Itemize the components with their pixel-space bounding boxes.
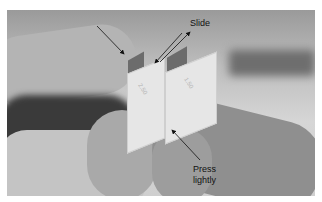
slide-arrow-down [155,33,182,63]
slide-label: Slide [190,18,210,28]
press-label-line1: Press [193,164,216,174]
arrow-to-block [97,26,124,54]
press-label-line2: lightly [193,175,216,185]
slide-arrow-up [160,32,190,62]
press-arrow [172,130,200,160]
annotation-arrows [0,0,322,202]
